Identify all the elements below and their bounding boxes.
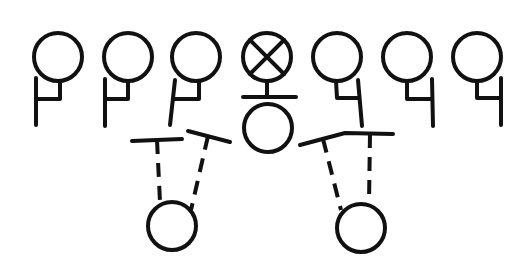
block-bar	[300, 133, 393, 145]
lineman-right-end	[453, 33, 501, 125]
stance-bar	[170, 80, 175, 125]
stance-bar	[358, 80, 362, 126]
player-circle-icon	[453, 33, 501, 81]
player-circle-icon	[104, 33, 152, 81]
lineman-right-guard	[313, 33, 362, 126]
player-circle-icon	[148, 202, 196, 250]
stance-stem	[477, 81, 501, 98]
quarterback-circle-icon	[244, 104, 292, 152]
stance-stem	[407, 81, 432, 99]
lineman-left-guard	[170, 33, 220, 125]
dashed-route	[191, 136, 208, 210]
center	[243, 33, 296, 97]
lineman-left-end	[34, 33, 82, 125]
football-play-diagram	[0, 0, 531, 268]
player-circle-icon	[313, 33, 361, 81]
stance-stem	[106, 81, 128, 99]
dashed-route	[157, 140, 160, 202]
left-back	[132, 131, 230, 250]
dashed-route	[369, 134, 370, 203]
lineman-right-tackle	[383, 33, 433, 126]
stance-stem	[36, 81, 60, 99]
player-circle-icon	[172, 33, 220, 81]
player-circle-icon	[383, 33, 431, 81]
dashed-route	[323, 139, 341, 210]
player-circle-icon	[337, 204, 385, 252]
player-circle-icon	[34, 33, 82, 81]
stance-stem	[174, 81, 199, 99]
stance-stem	[336, 81, 359, 98]
stance-bar	[432, 79, 433, 126]
right-back	[300, 133, 393, 252]
lineman-left-tackle	[104, 33, 152, 126]
